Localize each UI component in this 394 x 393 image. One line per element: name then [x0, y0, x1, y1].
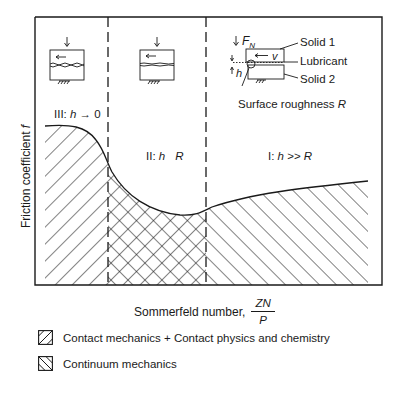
inset-gap-label: h: [236, 67, 242, 79]
y-axis-label: Friction coefficient f: [19, 123, 33, 228]
sommerfeld-fraction: ZN P: [251, 296, 274, 327]
inset-mixed-contact: [140, 37, 174, 84]
inset-lubricant-label: Lubricant: [300, 55, 348, 67]
inset-velocity-label: v: [272, 50, 279, 62]
forward-hatch-swatch-icon: [38, 330, 53, 345]
x-axis-label-text: Sommerfeld number,: [134, 305, 245, 319]
legend-label-contact: Contact mechanics + Contact physics and …: [63, 332, 330, 344]
back-hatch-swatch-icon: [38, 356, 53, 371]
inset-solid1-label: Solid 1: [300, 36, 335, 48]
inset-force-label: FN: [242, 34, 255, 50]
regime-III-label: III: h → 0: [54, 108, 101, 120]
stribeck-diagram: Friction coefficient f III: h → 0 II: hR…: [0, 0, 394, 293]
x-axis-label: Sommerfeld number, ZN P: [134, 296, 275, 327]
inset-boundary-contact: [50, 37, 84, 84]
fraction-denominator: P: [259, 312, 267, 327]
legend-item-contact: Contact mechanics + Contact physics and …: [38, 330, 330, 345]
legend-label-continuum: Continuum mechanics: [63, 358, 177, 370]
regime-II-label: II: hR: [146, 150, 184, 162]
regime-I-label: I: h >> R: [268, 150, 312, 162]
inset-roughness-label: Surface roughness R: [238, 98, 346, 110]
legend-item-continuum: Continuum mechanics: [38, 356, 177, 371]
fraction-numerator: ZN: [251, 296, 274, 312]
inset-solid2-label: Solid 2: [300, 73, 335, 85]
